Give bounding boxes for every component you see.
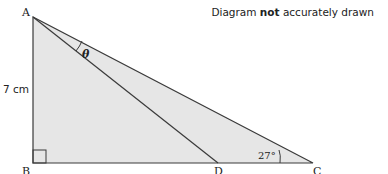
side-length-ab: 7 cm [3, 83, 29, 95]
vertex-label-c: C [313, 165, 321, 174]
triangle-abc [33, 17, 313, 163]
angle-c-label: 27° [258, 150, 276, 161]
vertex-label-d: D [214, 165, 223, 174]
angle-theta-label: θ [82, 48, 90, 61]
triangle-diagram: A B C D 7 cm 27° θ [0, 0, 388, 174]
vertex-label-b: B [22, 165, 30, 174]
vertex-label-a: A [21, 6, 31, 19]
